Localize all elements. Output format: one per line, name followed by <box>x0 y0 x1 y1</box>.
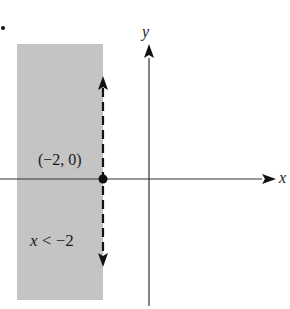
point-marker <box>99 175 108 184</box>
inequality-label: x < −2 <box>30 232 74 249</box>
inequality-variable: x <box>30 231 38 250</box>
y-axis-label: y <box>142 24 149 40</box>
y-axis-arrow-icon <box>144 44 154 58</box>
point-label: (−2, 0) <box>38 152 82 168</box>
inequality-graph: y x (−2, 0) x < −2 <box>0 0 290 309</box>
x-axis-arrow-icon <box>262 174 276 184</box>
boundary-down-arrow-icon <box>98 253 108 267</box>
x-axis-label: x <box>279 170 286 186</box>
inequality-rest: < −2 <box>38 231 74 250</box>
boundary-up-arrow-icon <box>98 76 108 90</box>
